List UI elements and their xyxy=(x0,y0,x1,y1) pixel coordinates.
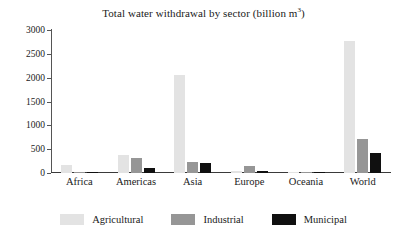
legend-item-industrial[interactable]: Industrial xyxy=(171,214,243,225)
y-axis-tick-label: 1000 xyxy=(26,120,45,130)
bar-asia-municipal xyxy=(200,163,211,173)
bar-world-agricultural xyxy=(344,41,355,173)
bar-asia-industrial xyxy=(187,162,198,173)
bar-group xyxy=(344,30,381,173)
legend-label-municipal: Municipal xyxy=(304,214,347,225)
x-axis-label-oceania: Oceania xyxy=(289,176,323,187)
bar-americas-municipal xyxy=(144,168,155,173)
y-axis-tick-mark xyxy=(47,125,51,126)
bar-group xyxy=(118,30,155,173)
bar-world-municipal xyxy=(370,153,381,173)
y-axis-tick-mark xyxy=(47,30,51,31)
y-axis-tick-label: 3000 xyxy=(26,25,45,35)
legend-swatch-municipal xyxy=(272,214,296,225)
bar-asia-agricultural xyxy=(174,75,185,173)
bar-europe-municipal xyxy=(257,171,268,173)
chart-figure: Total water withdrawal by sector (billio… xyxy=(0,0,407,249)
chart-title: Total water withdrawal by sector (billio… xyxy=(0,7,407,19)
legend-item-agricultural[interactable]: Agricultural xyxy=(60,214,143,225)
legend-swatch-industrial xyxy=(171,214,195,225)
y-axis-tick-label: 2500 xyxy=(26,49,45,59)
x-axis-label-africa: Africa xyxy=(66,176,93,187)
bar-group xyxy=(174,30,211,173)
bar-africa-agricultural xyxy=(61,165,72,173)
y-axis-tick-label: 500 xyxy=(31,144,45,154)
bar-oceania-municipal xyxy=(314,172,325,173)
chart-legend: AgriculturalIndustrialMunicipal xyxy=(0,214,407,225)
bar-europe-agricultural xyxy=(231,171,242,173)
y-axis-tick-label: 0 xyxy=(40,168,45,178)
legend-label-industrial: Industrial xyxy=(203,214,243,225)
bar-europe-industrial xyxy=(244,166,255,173)
x-axis-label-europe: Europe xyxy=(234,176,264,187)
legend-label-agricultural: Agricultural xyxy=(92,214,143,225)
bar-oceania-industrial xyxy=(301,172,312,173)
bar-oceania-agricultural xyxy=(288,172,299,173)
y-axis-tick-mark xyxy=(47,149,51,150)
x-axis-label-asia: Asia xyxy=(183,176,202,187)
bar-world-industrial xyxy=(357,139,368,173)
bar-group xyxy=(231,30,268,173)
legend-item-municipal[interactable]: Municipal xyxy=(272,214,347,225)
y-axis-tick-label: 1500 xyxy=(26,97,45,107)
bar-group xyxy=(288,30,325,173)
plot-area: 050010001500200025003000 xyxy=(51,30,391,173)
bar-group xyxy=(61,30,98,173)
legend-swatch-agricultural xyxy=(60,214,84,225)
x-axis-label-americas: Americas xyxy=(116,176,156,187)
bar-africa-industrial xyxy=(74,172,85,173)
bar-africa-municipal xyxy=(87,172,98,173)
y-axis-tick-mark xyxy=(47,102,51,103)
bar-americas-industrial xyxy=(131,158,142,173)
y-axis-tick-mark xyxy=(47,173,51,174)
y-axis-tick-mark xyxy=(47,54,51,55)
x-axis-label-world: World xyxy=(350,176,376,187)
chart-title-main: Total water withdrawal by sector (billio… xyxy=(102,7,297,19)
bar-americas-agricultural xyxy=(118,155,129,173)
y-axis-tick-label: 2000 xyxy=(26,73,45,83)
chart-title-tail: ) xyxy=(301,7,305,19)
y-axis-tick-mark xyxy=(47,78,51,79)
